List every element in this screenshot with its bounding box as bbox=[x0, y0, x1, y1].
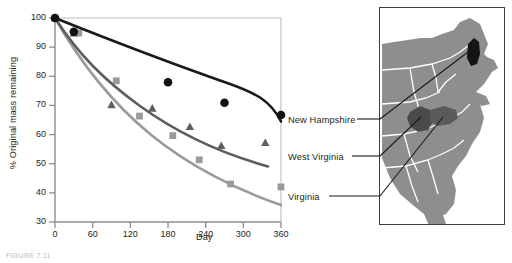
y-tick-60: 60 bbox=[22, 129, 46, 139]
y-axis-ticks bbox=[49, 18, 55, 222]
y-tick-80: 80 bbox=[22, 70, 46, 80]
y-tick-90: 90 bbox=[22, 41, 46, 51]
series-label-virginia: Virginia bbox=[288, 192, 320, 202]
series-label-new-hampshire: New Hampshire bbox=[288, 115, 355, 125]
figure-caption: FIGURE 7.11 bbox=[6, 252, 51, 259]
y-tick-30: 30 bbox=[22, 216, 46, 226]
series-label-west-virginia: West Virginia bbox=[288, 152, 344, 162]
y-tick-50: 50 bbox=[22, 158, 46, 168]
x-tick-300: 300 bbox=[230, 229, 256, 239]
map-graphic bbox=[380, 8, 504, 224]
y-tick-70: 70 bbox=[22, 99, 46, 109]
y-tick-40: 40 bbox=[22, 187, 46, 197]
x-axis-ticks bbox=[55, 222, 281, 228]
x-tick-60: 60 bbox=[80, 229, 106, 239]
x-tick-360: 360 bbox=[268, 229, 294, 239]
x-tick-0: 0 bbox=[42, 229, 68, 239]
x-tick-180: 180 bbox=[155, 229, 181, 239]
virginia-markers bbox=[52, 15, 285, 191]
figure-7-11: 100 90 80 70 60 50 40 30 0 60 120 180 24… bbox=[0, 0, 512, 263]
west-virginia-markers bbox=[51, 14, 270, 149]
x-tick-120: 120 bbox=[117, 229, 143, 239]
locator-map bbox=[379, 7, 505, 225]
x-axis-label: Day bbox=[196, 232, 212, 242]
series-virginia bbox=[52, 15, 285, 206]
y-tick-100: 100 bbox=[22, 12, 46, 22]
y-axis-label: % Original mass remaining bbox=[8, 53, 18, 173]
